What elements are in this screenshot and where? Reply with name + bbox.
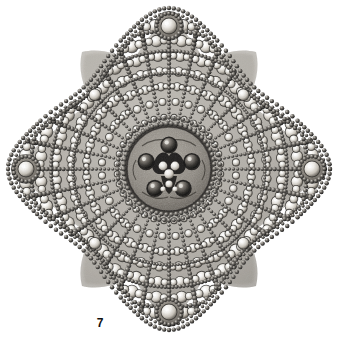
figure-caption-number: 7 xyxy=(88,316,112,330)
sunburst-brooch-drawing xyxy=(0,0,338,352)
photographic-plate: 7 xyxy=(0,0,338,352)
jewel-figure xyxy=(0,0,338,352)
